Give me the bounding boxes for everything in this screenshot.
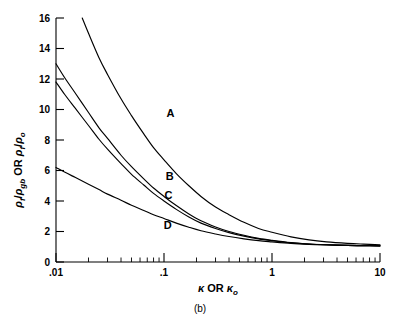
y-axis-title-o-sub: o xyxy=(18,132,27,137)
y-tick-label: 16 xyxy=(39,13,51,24)
y-axis-title-or: OR xyxy=(12,159,24,176)
x-axis-title-o-sub: o xyxy=(233,288,238,297)
y-axis-ticks xyxy=(56,18,64,262)
x-tick-label: .1 xyxy=(160,267,169,278)
caption-label: (b) xyxy=(194,303,206,314)
curve-label-d: D xyxy=(164,219,172,231)
x-axis-tick-labels: .01.1110 xyxy=(49,267,386,278)
curve-label-b: B xyxy=(166,170,174,182)
y-tick-label: 10 xyxy=(39,104,51,115)
curve-b xyxy=(56,64,380,246)
curve-a xyxy=(82,18,380,245)
x-tick-label: 1 xyxy=(269,267,275,278)
svg-text:κ OR κo: κ OR κo xyxy=(198,282,238,297)
y-tick-label: 2 xyxy=(44,226,50,237)
y-axis-title: ρf/ρgb OR ρf/ρo xyxy=(12,132,27,209)
axes xyxy=(56,18,380,262)
y-tick-label: 8 xyxy=(44,135,50,146)
x-axis-title-or: OR xyxy=(207,282,224,294)
y-tick-label: 4 xyxy=(44,196,50,207)
figure-caption: (b) xyxy=(194,303,206,314)
chart-canvas: .01.1110 0246810121416 ABCD ρf/ρgb OR ρf… xyxy=(0,0,393,320)
y-tick-label: 14 xyxy=(39,43,51,54)
data-curves xyxy=(56,18,380,246)
y-axis-tick-labels: 0246810121416 xyxy=(39,13,51,268)
figure-container: .01.1110 0246810121416 ABCD ρf/ρgb OR ρf… xyxy=(0,0,393,320)
x-axis-title: κ OR κo xyxy=(198,282,238,297)
curve-label-c: C xyxy=(164,189,172,201)
y-tick-label: 6 xyxy=(44,165,50,176)
y-tick-label: 0 xyxy=(44,257,50,268)
x-tick-label: 10 xyxy=(374,267,386,278)
x-tick-label: .01 xyxy=(49,267,63,278)
svg-text:ρf/ρgb OR ρf/ρo: ρf/ρgb OR ρf/ρo xyxy=(12,132,27,209)
y-tick-label: 12 xyxy=(39,74,51,85)
curve-d xyxy=(56,167,380,245)
curve-c xyxy=(56,82,380,246)
x-axis-ticks xyxy=(56,253,380,262)
y-axis-title-gb-sub: gb xyxy=(18,179,27,190)
curve-label-a: A xyxy=(167,107,175,119)
